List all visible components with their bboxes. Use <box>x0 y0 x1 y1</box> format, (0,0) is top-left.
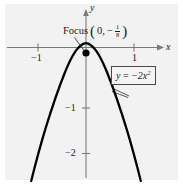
focus-open-paren: ( <box>90 24 95 39</box>
equation-lhs: y <box>116 70 120 81</box>
focus-annotation: Focus ( 0, − 1 8 ) <box>63 24 127 39</box>
focus-fraction: 1 8 <box>115 24 120 39</box>
focus-minus-sign: − <box>107 26 113 37</box>
focus-x-coordinate: 0, <box>97 26 105 37</box>
equation-exponent: 2 <box>147 69 150 76</box>
x-tick-label-1: 1 <box>132 53 137 63</box>
parabola-figure: x y −1 1 −1 −2 Focus ( 0, − 1 8 ) y = −2… <box>0 0 183 189</box>
equation-rhs: −2x <box>131 70 147 81</box>
focus-point-marker <box>82 49 89 56</box>
equation-callout-box: y = −2x2 <box>111 66 156 85</box>
y-tick-label-neg2: −2 <box>65 148 76 158</box>
y-tick-label-neg1: −1 <box>65 103 76 113</box>
focus-word: Focus <box>63 26 88 37</box>
x-axis-label: x <box>166 42 170 52</box>
equation-equals-sign: = <box>123 70 129 81</box>
y-axis-label: y <box>90 3 94 13</box>
fraction-numerator: 1 <box>115 24 120 31</box>
equation-leader-lines <box>112 88 129 98</box>
x-tick-label-neg1: −1 <box>31 53 42 63</box>
fraction-denominator: 8 <box>115 31 120 39</box>
focus-close-paren: ) <box>122 24 127 39</box>
